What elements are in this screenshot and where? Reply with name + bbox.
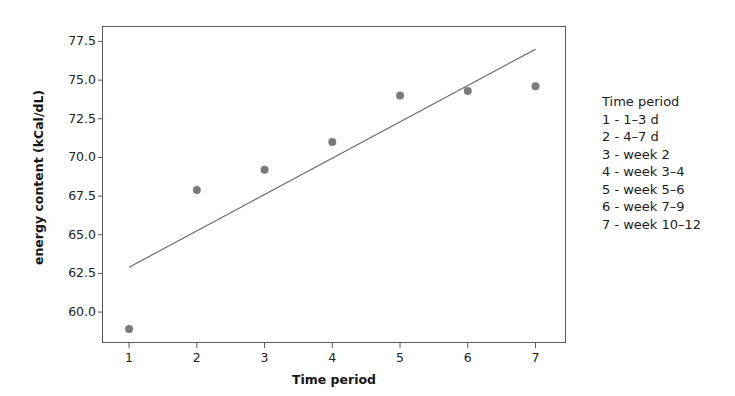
legend-entry: 1 - 1–3 d <box>602 111 735 129</box>
legend-entry: 7 - week 10–12 <box>602 216 735 234</box>
legend: Time period 1 - 1–3 d2 - 4–7 d3 - week 2… <box>602 93 735 233</box>
legend-entry-list: 1 - 1–3 d2 - 4–7 d3 - week 24 - week 3–4… <box>602 111 735 234</box>
legend-title: Time period <box>602 93 735 111</box>
y-tick-label: 75.0 <box>44 74 96 87</box>
x-tick-label: 7 <box>521 352 551 365</box>
tick-marks <box>98 41 536 348</box>
legend-entry: 2 - 4–7 d <box>602 128 735 146</box>
y-tick-label: 65.0 <box>44 229 96 242</box>
y-tick-label: 60.0 <box>44 306 96 319</box>
data-point-marker <box>125 325 133 333</box>
scatter-chart-figure: 60.062.565.067.570.072.575.077.5 1234567… <box>0 0 590 396</box>
regression-line-segment <box>129 49 535 267</box>
x-tick-label: 5 <box>385 352 415 365</box>
data-point-marker <box>261 166 269 174</box>
x-axis-title: Time period <box>102 372 566 387</box>
y-tick-label: 62.5 <box>44 267 96 280</box>
legend-entry: 6 - week 7–9 <box>602 198 735 216</box>
regression-line <box>129 49 535 267</box>
x-tick-label: 1 <box>114 352 144 365</box>
y-tick-label: 72.5 <box>44 113 96 126</box>
x-axis-tick-labels: 1234567 <box>0 352 590 372</box>
data-point-marker <box>396 92 404 100</box>
data-point-marker <box>532 82 540 90</box>
legend-entry: 5 - week 5–6 <box>602 181 735 199</box>
y-tick-label: 67.5 <box>44 190 96 203</box>
y-axis-title: energy content (kCal/dL) <box>31 48 46 308</box>
y-tick-label: 77.5 <box>44 35 96 48</box>
data-point-markers <box>125 82 539 333</box>
legend-entry: 3 - week 2 <box>602 146 735 164</box>
x-tick-label: 2 <box>182 352 212 365</box>
x-tick-label: 6 <box>453 352 483 365</box>
data-point-marker <box>464 87 472 95</box>
data-point-marker <box>193 186 201 194</box>
x-tick-label: 3 <box>250 352 280 365</box>
y-tick-label: 70.0 <box>44 151 96 164</box>
x-tick-label: 4 <box>317 352 347 365</box>
chart-page: 60.062.565.067.570.072.575.077.5 1234567… <box>0 0 735 396</box>
data-point-marker <box>328 138 336 146</box>
legend-entry: 4 - week 3–4 <box>602 163 735 181</box>
